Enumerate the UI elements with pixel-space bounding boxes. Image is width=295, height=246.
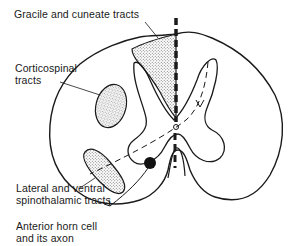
label-spinothalamic-line2: spinothalamic tracts [16, 194, 111, 206]
gracile-cuneate-tracts-region [132, 34, 176, 118]
spinal-cord-diagram: Gracile and cuneate tracts Corticospinal… [0, 0, 295, 246]
anterior-horn-cell [144, 157, 156, 169]
label-corticospinal-line2: tracts [15, 74, 41, 86]
corticospinal-tracts-region [91, 81, 131, 131]
label-anterior-horn-line1: Anterior horn cell [16, 220, 97, 232]
label-spinothalamic-line1: Lateral and ventral [16, 182, 105, 194]
label-gracile-cuneate: Gracile and cuneate tracts [14, 8, 139, 20]
label-corticospinal-line1: Corticospinal [15, 62, 77, 74]
corticospinal-leader-line [60, 82, 100, 95]
label-anterior-horn-line2: and its axon [16, 232, 74, 244]
spinal-cord-illustration [0, 0, 295, 246]
